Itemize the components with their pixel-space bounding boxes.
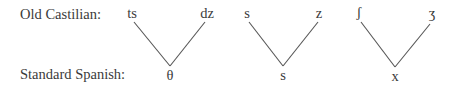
line-ezh-to-x (395, 24, 430, 67)
group-1-right-symbol: dz (200, 6, 214, 21)
group-3-right-symbol: ʒ (429, 6, 435, 21)
group-3-result-symbol: x (391, 69, 398, 84)
line-s-to-s (249, 22, 283, 66)
group-2-right-symbol: z (316, 6, 322, 21)
group-2-left-symbol: s (244, 6, 250, 21)
group-2-result-symbol: s (280, 68, 286, 83)
line-z-to-s (283, 22, 318, 66)
group-1-result-symbol: θ (167, 68, 174, 83)
group-1-left-symbol: ts (127, 6, 137, 21)
group-3-left-symbol: ʃ (357, 5, 362, 20)
line-ts-to-theta (134, 22, 170, 66)
merger-lines (0, 0, 453, 87)
line-esh-to-x (361, 22, 395, 67)
line-dz-to-theta (170, 22, 205, 66)
